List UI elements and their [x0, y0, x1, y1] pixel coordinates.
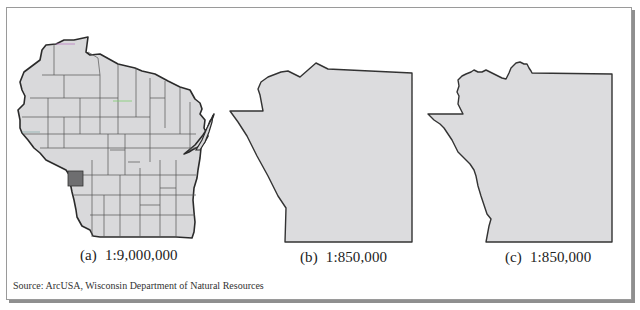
county-outline-generalized [230, 63, 412, 242]
highlighted-county [68, 171, 83, 186]
caption-c-letter: (c) [505, 249, 522, 265]
caption-c: (c)1:850,000 [505, 249, 591, 266]
county-outline-detailed [428, 62, 612, 242]
caption-a: (a)1:9,000,000 [80, 247, 178, 264]
source-note: Source: ArcUSA, Wisconsin Department of … [13, 280, 264, 291]
caption-b-letter: (b) [300, 249, 318, 265]
caption-a-letter: (a) [80, 247, 97, 263]
caption-a-scale: 1:9,000,000 [105, 247, 178, 263]
wisconsin-outline [18, 37, 214, 238]
caption-b: (b)1:850,000 [300, 249, 387, 266]
caption-c-scale: 1:850,000 [530, 249, 591, 265]
caption-b-scale: 1:850,000 [326, 249, 387, 265]
wisconsin-map [18, 37, 214, 238]
